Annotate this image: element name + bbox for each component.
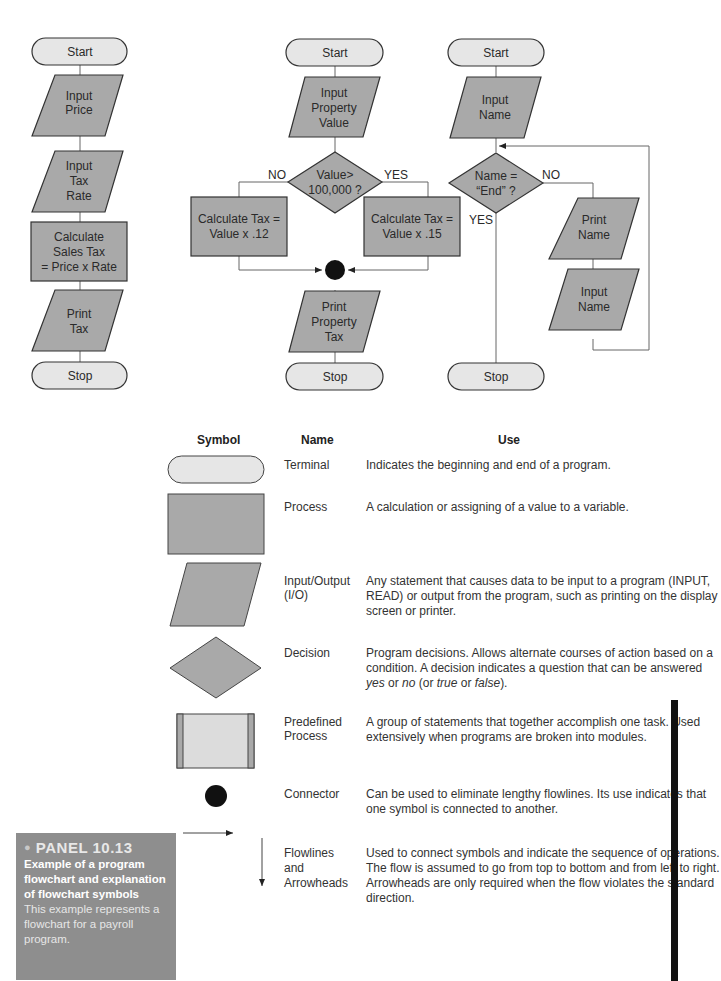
svg-text:Input: Input	[66, 159, 93, 173]
svg-text:Input: Input	[66, 89, 93, 103]
legend-header-symbol: Symbol	[197, 433, 240, 447]
terminal-symbol-icon	[168, 456, 264, 483]
svg-text:Sales Tax: Sales Tax	[53, 245, 105, 259]
svg-text:Value x .15: Value x .15	[382, 227, 441, 241]
flowchart-name-loop: Start Input Name Name = “End” ? NO YES P…	[448, 39, 649, 390]
no-label: NO	[542, 168, 560, 182]
yes-label: YES	[469, 213, 493, 227]
legend-name-flowlines: FlowlinesandArrowheads	[284, 846, 348, 891]
panel-body: This example represents a flowchart for …	[24, 902, 168, 947]
svg-text:Calculate Tax =: Calculate Tax =	[371, 212, 453, 226]
svg-text:Property: Property	[311, 101, 356, 115]
terminal-start: Start	[448, 39, 544, 66]
legend-use-io: Any statement that causes data to be inp…	[366, 574, 721, 619]
io-print-name: Print Name	[549, 198, 639, 259]
svg-text:Value x .12: Value x .12	[209, 227, 268, 241]
svg-text:Input: Input	[581, 285, 608, 299]
no-label: NO	[268, 168, 286, 182]
legend-use-terminal: Indicates the beginning and end of a pro…	[366, 458, 721, 473]
io-input-name-loop: Input Name	[549, 269, 639, 330]
legend-name-predefined-process: PredefinedProcess	[284, 715, 342, 743]
io-input-tax-rate: Input Tax Rate	[32, 151, 123, 212]
connector-icon	[325, 260, 345, 280]
legend-use-connector: Can be used to eliminate lengthy flowlin…	[366, 787, 721, 817]
svg-text:Tax: Tax	[70, 174, 89, 188]
flowchart-property-tax: Start Input Property Value Value> 100,00…	[191, 39, 460, 390]
svg-text:Price: Price	[65, 103, 93, 117]
svg-text:Stop: Stop	[68, 369, 93, 383]
legend-name-terminal: Terminal	[284, 458, 329, 472]
legend-name-decision: Decision	[284, 646, 330, 660]
process-symbol-icon	[168, 494, 264, 554]
io-print-tax: Print Tax	[32, 290, 123, 351]
svg-text:Input: Input	[482, 93, 509, 107]
legend-use-process: A calculation or assigning of a value to…	[366, 500, 721, 515]
svg-text:Property: Property	[311, 315, 356, 329]
predefined-process-symbol-icon	[177, 714, 254, 768]
process-calculate-sales-tax: Calculate Sales Tax = Price x Rate	[31, 222, 127, 281]
svg-text:Print: Print	[67, 307, 92, 321]
decision-symbol-icon	[170, 637, 261, 698]
svg-text:Print: Print	[322, 300, 347, 314]
svg-text:Stop: Stop	[484, 370, 509, 384]
yes-label: YES	[384, 168, 408, 182]
svg-text:Name: Name	[578, 228, 610, 242]
decision-name-end: Name = “End” ?	[449, 153, 543, 213]
terminal-stop: Stop	[286, 363, 383, 390]
svg-text:= Price x Rate: = Price x Rate	[41, 260, 117, 274]
io-input-property-value: Input Property Value	[289, 77, 380, 137]
svg-text:Stop: Stop	[323, 370, 348, 384]
panel-subtitle: Example of a program flowchart and expla…	[24, 857, 168, 902]
terminal-start: Start	[32, 38, 127, 65]
caption-panel: ● PANEL 10.13 Example of a program flowc…	[16, 833, 176, 980]
panel-title: ● PANEL 10.13	[24, 839, 168, 856]
io-print-property-tax: Print Property Tax	[289, 291, 380, 352]
process-tax-15: Calculate Tax = Value x .15	[364, 197, 460, 256]
legend-header-name: Name	[301, 433, 334, 447]
svg-text:Name: Name	[479, 108, 511, 122]
terminal-start: Start	[286, 39, 383, 66]
terminal-stop: Stop	[32, 362, 127, 389]
svg-text:“End” ?: “End” ?	[476, 184, 516, 198]
legend-header-use: Use	[498, 433, 520, 447]
legend-use-decision: Program decisions. Allows alternate cour…	[366, 646, 721, 691]
legend-name-connector: Connector	[284, 787, 339, 801]
legend-name-process: Process	[284, 500, 327, 514]
io-input-name: Input Name	[450, 77, 541, 138]
svg-text:Value: Value	[319, 116, 349, 130]
legend-use-predefined-process: A group of statements that together acco…	[366, 715, 721, 745]
connector-symbol-icon	[205, 785, 227, 807]
svg-text:Print: Print	[582, 213, 607, 227]
legend-symbols	[168, 456, 264, 886]
svg-text:Input: Input	[321, 86, 348, 100]
svg-text:Tax: Tax	[325, 330, 344, 344]
svg-text:Value>: Value>	[317, 168, 354, 182]
svg-text:Name =: Name =	[475, 169, 517, 183]
legend-use-flowlines: Used to connect symbols and indicate the…	[366, 846, 721, 906]
svg-text:Name: Name	[578, 300, 610, 314]
flowchart-sales-tax: Start Input Price Input Tax Rate Calcula…	[31, 38, 127, 389]
page-edge-tab	[671, 700, 678, 981]
process-tax-12: Calculate Tax = Value x .12	[191, 197, 287, 256]
svg-text:100,000 ?: 100,000 ?	[308, 183, 362, 197]
svg-text:Calculate: Calculate	[54, 230, 104, 244]
terminal-stop: Stop	[448, 363, 544, 390]
legend-name-io: Input/Output(I/O)	[284, 574, 350, 602]
svg-text:Start: Start	[483, 46, 509, 60]
svg-text:Start: Start	[322, 46, 348, 60]
io-input-price: Input Price	[32, 75, 123, 136]
svg-text:Start: Start	[67, 45, 93, 59]
svg-text:Rate: Rate	[66, 189, 92, 203]
svg-text:Tax: Tax	[70, 322, 89, 336]
svg-text:Calculate Tax =: Calculate Tax =	[198, 212, 280, 226]
bullet-icon: ●	[24, 841, 31, 853]
io-symbol-icon	[170, 563, 261, 626]
